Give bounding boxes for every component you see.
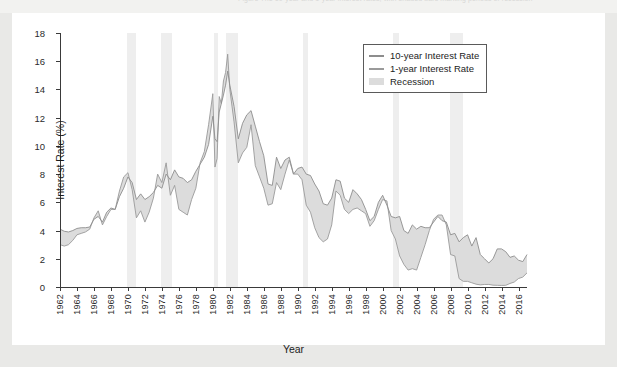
x-tick [230, 287, 231, 291]
x-tick-label: 1962 [55, 294, 65, 315]
x-tick [400, 287, 401, 291]
x-tick-label: 1974 [157, 294, 167, 315]
legend-swatch-icon [369, 78, 384, 85]
x-tick [77, 287, 78, 291]
x-tick-label: 2006 [429, 294, 439, 315]
legend-row: Recession [369, 75, 479, 88]
x-tick-label: 1972 [140, 294, 150, 315]
x-tick-label: 2010 [463, 294, 473, 315]
legend-label: 10-year Interest Rate [390, 50, 479, 61]
x-tick [128, 287, 129, 291]
x-tick [519, 287, 520, 291]
y-tick-label: 16 [34, 56, 45, 67]
legend-label: Recession [390, 76, 434, 87]
x-axis-line [60, 287, 527, 288]
legend-label: 1-year Interest Rate [390, 63, 474, 74]
x-tick-label: 2016 [514, 294, 524, 315]
x-tick [179, 287, 180, 291]
x-tick [60, 287, 61, 291]
x-tick [162, 287, 163, 291]
x-tick [281, 287, 282, 291]
chart-legend: 10-year Interest Rate1-year Interest Rat… [363, 44, 487, 93]
x-tick-label: 1976 [174, 294, 184, 315]
legend-line-icon [369, 55, 384, 57]
x-tick [366, 287, 367, 291]
x-tick-label: 1980 [208, 294, 218, 315]
x-tick-label: 1996 [344, 294, 354, 315]
legend-row: 10-year Interest Rate [369, 49, 479, 62]
x-tick [451, 287, 452, 291]
y-tick [56, 33, 60, 34]
x-tick [94, 287, 95, 291]
legend-line-icon [369, 68, 384, 70]
x-tick [247, 287, 248, 291]
x-tick-label: 2000 [378, 294, 388, 315]
x-tick [383, 287, 384, 291]
x-tick-label: 1992 [310, 294, 320, 315]
y-tick [56, 231, 60, 232]
x-tick [213, 287, 214, 291]
y-tick [56, 259, 60, 260]
x-tick-label: 1968 [106, 294, 116, 315]
x-tick [502, 287, 503, 291]
x-tick-label: 2014 [497, 294, 507, 315]
x-tick [349, 287, 350, 291]
x-tick [468, 287, 469, 291]
y-tick-label: 12 [34, 112, 45, 123]
figure-caption: Figure The 10-year and 1-year interest r… [238, 0, 533, 2]
x-tick [485, 287, 486, 291]
x-tick [315, 287, 316, 291]
x-tick-label: 1994 [327, 294, 337, 315]
x-tick-label: 1984 [242, 294, 252, 315]
y-tick-label: 10 [34, 140, 45, 151]
y-tick-label: 4 [40, 225, 45, 236]
x-tick-label: 1964 [72, 294, 82, 315]
x-tick-label: 2004 [412, 294, 422, 315]
x-tick-label: 1982 [225, 294, 235, 315]
x-tick-label: 1966 [89, 294, 99, 315]
series-line-10y [60, 71, 527, 263]
plot-area: 024681012141618 196219641966196819701972… [60, 33, 527, 287]
y-tick-label: 8 [40, 169, 45, 180]
y-tick [56, 61, 60, 62]
y-tick-label: 18 [34, 28, 45, 39]
figure-page: Figure The 10-year and 1-year interest r… [0, 0, 617, 367]
chart-panel: 024681012141618 196219641966196819701972… [12, 13, 605, 345]
x-tick-label: 1978 [191, 294, 201, 315]
legend-row: 1-year Interest Rate [369, 62, 479, 75]
x-tick [332, 287, 333, 291]
x-tick-label: 2012 [480, 294, 490, 315]
x-tick-label: 1998 [361, 294, 371, 315]
y-axis-title: Interest Rate (%) [54, 120, 66, 199]
x-tick [417, 287, 418, 291]
y-tick [56, 202, 60, 203]
x-tick [298, 287, 299, 291]
x-tick-label: 1970 [123, 294, 133, 315]
x-tick [196, 287, 197, 291]
x-tick-label: 2002 [395, 294, 405, 315]
x-tick-label: 1990 [293, 294, 303, 315]
x-tick-label: 2008 [446, 294, 456, 315]
caption-strip: Figure The 10-year and 1-year interest r… [0, 0, 617, 13]
x-tick [264, 287, 265, 291]
x-tick [145, 287, 146, 291]
x-tick [434, 287, 435, 291]
y-tick-label: 0 [40, 282, 45, 293]
y-tick-label: 2 [40, 253, 45, 264]
x-tick-label: 1988 [276, 294, 286, 315]
y-tick-label: 6 [40, 197, 45, 208]
y-tick-label: 14 [34, 84, 45, 95]
x-axis-title: Year [60, 343, 527, 355]
x-tick [111, 287, 112, 291]
x-tick-label: 1986 [259, 294, 269, 315]
y-tick [56, 118, 60, 119]
y-tick [56, 89, 60, 90]
